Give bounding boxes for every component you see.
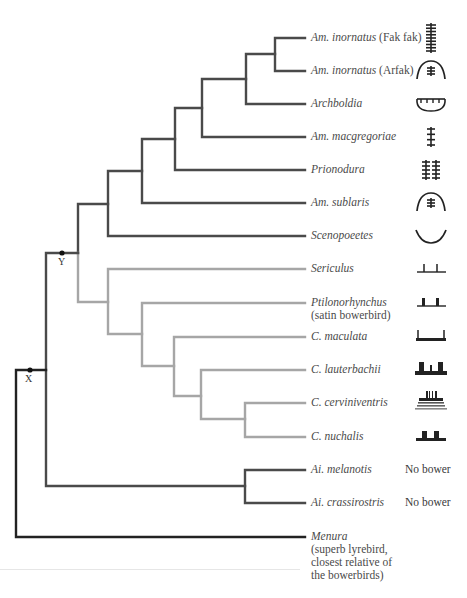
taxon-name: Archboldia — [311, 97, 362, 109]
taxon-name: C. maculata — [311, 330, 367, 342]
no-bower-label: No bower — [405, 463, 451, 475]
no-bower-label: No bower — [405, 496, 451, 508]
taxon-label: Ptilonorhynchus(satin bowerbird) — [311, 296, 391, 322]
taxon-name: Scenopoeetes — [311, 229, 373, 241]
maypole-small-icon — [427, 127, 435, 147]
taxon-label: C. cerviniventris — [311, 396, 388, 409]
double-avenue-icon — [415, 362, 447, 375]
bower-icons — [415, 23, 447, 441]
taxon-label: Sericulus — [311, 262, 354, 275]
branch-node-cerviniventris-nuchalis — [245, 403, 305, 437]
taxon-note: (satin bowerbird) — [311, 309, 391, 321]
avenue-platform-icon — [415, 391, 447, 410]
phylogenetic-tree — [0, 0, 467, 598]
taxon-name: Am. inornatus — [311, 64, 376, 76]
node-dot-x — [27, 367, 32, 372]
taxon-name: Ai. melanotis — [311, 463, 372, 475]
node-label-y: Y — [58, 256, 65, 267]
divider-line — [0, 569, 300, 570]
node-label-x: X — [25, 373, 32, 384]
taxon-label: Am. sublaris — [311, 196, 369, 209]
hut-maypole-icon — [417, 61, 445, 79]
taxon-name: Am. sublaris — [311, 196, 369, 208]
branch-node-lauterbachii — [201, 370, 305, 419]
taxon-label: Am. inornatus (Arfak) — [311, 64, 414, 77]
avenue-icon — [417, 298, 446, 306]
taxon-name: Am. macgregoriae — [311, 130, 396, 142]
node-dot-y — [59, 250, 64, 255]
branch-node-ptilonorhynchus — [142, 303, 305, 366]
avenue-long-icon — [416, 330, 446, 341]
taxon-name: Prionodura — [311, 163, 365, 175]
taxon-label: Am. macgregoriae — [311, 130, 396, 143]
taxon-name: Ptilonorhynchus — [311, 296, 387, 308]
taxon-note: the bowerbirds) — [311, 569, 384, 581]
maypole-tall-icon — [426, 23, 436, 53]
avenue-wide-icon — [416, 431, 446, 441]
taxon-label: Prionodura — [311, 163, 365, 176]
taxon-name: Sericulus — [311, 262, 354, 274]
taxon-name: Menura — [311, 530, 347, 542]
taxon-label: Archboldia — [311, 97, 362, 110]
taxon-label: Am. inornatus (Fak fak) — [311, 31, 422, 44]
taxon-label: C. nuchalis — [311, 430, 363, 443]
taxon-label: Menura(superb lyrebird,closest relative … — [311, 530, 392, 582]
tree-branches — [16, 38, 305, 537]
taxon-label: C. lauterbachii — [311, 363, 381, 376]
branch-node-maculata — [174, 337, 305, 396]
branch-node-sericulus — [108, 269, 305, 334]
taxon-name: C. cerviniventris — [311, 396, 388, 408]
branch-node-ailuroedus — [245, 470, 305, 503]
branch-node-prionodura — [175, 108, 305, 170]
branch-root-menura — [16, 370, 305, 537]
hut-maypole-icon — [417, 193, 445, 211]
taxon-label: C. maculata — [311, 330, 367, 343]
taxon-note: (superb lyrebird, — [311, 543, 388, 555]
court-bowl-icon — [416, 230, 446, 243]
taxon-note: (Arfak) — [376, 64, 413, 76]
branch-node-y-upper — [78, 204, 108, 253]
taxon-label: Ai. crassirostris — [311, 496, 384, 509]
double-maypole-icon — [422, 160, 440, 180]
taxon-name: C. lauterbachii — [311, 363, 381, 375]
taxon-label: Ai. melanotis — [311, 463, 372, 476]
taxon-name: C. nuchalis — [311, 430, 363, 442]
avenue-thin-icon — [417, 264, 446, 272]
taxon-note: closest relative of — [311, 556, 392, 568]
branch-node-y-lower — [78, 253, 108, 302]
taxon-name: Ai. crassirostris — [311, 496, 384, 508]
branch-node-inornatus — [275, 38, 305, 71]
mat-bowl-icon — [417, 99, 445, 111]
taxon-label: Scenopoeetes — [311, 229, 373, 242]
taxon-note: (Fak fak) — [376, 31, 421, 43]
branch-node-macgregoriae — [202, 79, 305, 137]
taxon-name: Am. inornatus — [311, 31, 376, 43]
